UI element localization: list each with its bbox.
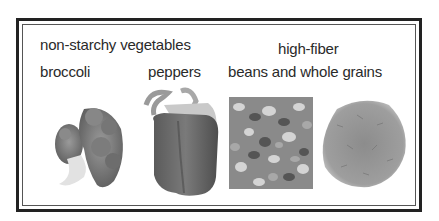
food-panel-frame: non-starchy vegetables broccoli peppers …: [16, 18, 422, 212]
label-broccoli: broccoli: [40, 63, 90, 80]
heading-beans-whole-grains: beans and whole grains: [228, 63, 382, 80]
label-peppers: peppers: [148, 63, 201, 80]
broccoli-image: [29, 89, 134, 199]
mixed-beans-image: [229, 97, 313, 189]
whole-grains-image: [317, 95, 409, 191]
heading-non-starchy-vegetables: non-starchy vegetables: [40, 36, 191, 53]
bell-pepper-image: [136, 87, 226, 199]
heading-high-fiber: high-fiber: [278, 40, 339, 57]
